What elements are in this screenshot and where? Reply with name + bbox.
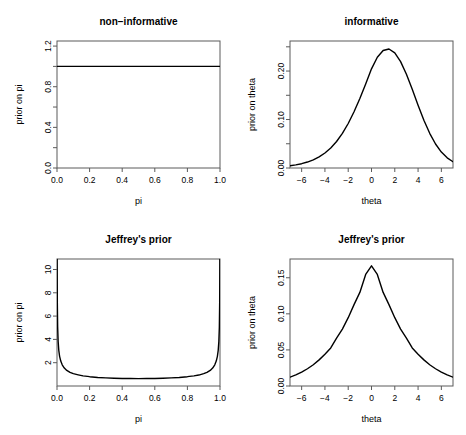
y-tick-label: 0.10 bbox=[276, 111, 286, 128]
x-tick-label: 0.0 bbox=[51, 393, 63, 403]
y-tick-label: 0.00 bbox=[276, 377, 286, 394]
plot-top-left: non−informative0.00.40.81.20.00.20.40.60… bbox=[0, 0, 233, 217]
y-axis-label: prior on pi bbox=[14, 84, 24, 124]
panel-title: non−informative bbox=[99, 16, 178, 27]
x-tick-label: 0.6 bbox=[149, 393, 161, 403]
x-tick-label: −6 bbox=[297, 393, 307, 403]
y-tick-label: 4 bbox=[43, 337, 53, 342]
x-tick-label: 0.0 bbox=[51, 175, 63, 185]
y-axis-label: prior on pi bbox=[14, 302, 24, 342]
x-axis-label: theta bbox=[361, 414, 381, 424]
y-tick-label: 0.00 bbox=[276, 159, 286, 176]
plot-frame bbox=[290, 41, 453, 168]
x-tick-label: 6 bbox=[439, 175, 444, 185]
x-axis-label: pi bbox=[135, 196, 142, 206]
x-axis-label: pi bbox=[135, 414, 142, 424]
y-tick-label: 0.4 bbox=[43, 121, 53, 133]
plot-top-right: informative0.000.100.20−6−4−20246thetapr… bbox=[233, 0, 466, 217]
x-tick-label: −2 bbox=[343, 393, 353, 403]
y-tick-label: 0.0 bbox=[43, 162, 53, 174]
y-tick-label: 0.10 bbox=[276, 305, 286, 322]
x-tick-label: 0.8 bbox=[181, 393, 193, 403]
x-axis-label: theta bbox=[361, 196, 381, 206]
x-tick-label: 0.8 bbox=[181, 175, 193, 185]
x-tick-label: −2 bbox=[343, 175, 353, 185]
data-curve bbox=[57, 259, 220, 378]
plot-bottom-right: Jeffrey's prior0.000.050.100.15−6−4−2024… bbox=[233, 218, 466, 435]
x-tick-label: 4 bbox=[416, 393, 421, 403]
plot-frame bbox=[57, 41, 220, 168]
y-tick-label: 6 bbox=[43, 313, 53, 318]
data-curve bbox=[290, 266, 453, 377]
plot-bottom-left: Jeffrey's prior2468100.00.20.40.60.81.0p… bbox=[0, 218, 233, 435]
x-tick-label: 0.4 bbox=[116, 393, 128, 403]
y-tick-label: 0.20 bbox=[276, 63, 286, 80]
plot-frame bbox=[57, 259, 220, 386]
x-tick-label: 2 bbox=[392, 393, 397, 403]
plot-frame bbox=[290, 259, 453, 386]
data-curve bbox=[290, 49, 453, 166]
y-axis-label: prior on theta bbox=[247, 296, 257, 349]
y-tick-label: 0.05 bbox=[276, 341, 286, 358]
r-multipanel-figure: non−informative0.00.40.81.20.00.20.40.60… bbox=[0, 0, 466, 435]
x-tick-label: −6 bbox=[297, 175, 307, 185]
x-tick-label: 1.0 bbox=[214, 175, 226, 185]
x-tick-label: 0.6 bbox=[149, 175, 161, 185]
panel-title: informative bbox=[345, 16, 399, 27]
x-tick-label: 0.2 bbox=[84, 175, 96, 185]
x-tick-label: 0.2 bbox=[84, 393, 96, 403]
panel-informative-theta: informative0.000.100.20−6−4−20246thetapr… bbox=[233, 0, 466, 217]
x-tick-label: 0 bbox=[369, 175, 374, 185]
x-tick-label: 0 bbox=[369, 393, 374, 403]
panel-title: Jeffrey's prior bbox=[338, 234, 404, 245]
y-tick-label: 1.2 bbox=[43, 40, 53, 52]
y-tick-label: 2 bbox=[43, 360, 53, 365]
x-tick-label: 1.0 bbox=[214, 393, 226, 403]
panel-title: Jeffrey's prior bbox=[105, 234, 171, 245]
panel-non-informative-pi: non−informative0.00.40.81.20.00.20.40.60… bbox=[0, 0, 233, 217]
x-tick-label: 6 bbox=[439, 393, 444, 403]
y-axis-label: prior on theta bbox=[247, 78, 257, 131]
y-tick-label: 0.8 bbox=[43, 81, 53, 93]
y-tick-label: 8 bbox=[43, 290, 53, 295]
y-tick-label: 10 bbox=[43, 264, 53, 274]
x-tick-label: 4 bbox=[416, 175, 421, 185]
x-tick-label: 0.4 bbox=[116, 175, 128, 185]
x-tick-label: 2 bbox=[392, 175, 397, 185]
x-tick-label: −4 bbox=[320, 175, 330, 185]
panel-jeffreys-prior-theta: Jeffrey's prior0.000.050.100.15−6−4−2024… bbox=[233, 218, 466, 435]
panel-jeffreys-prior-pi: Jeffrey's prior2468100.00.20.40.60.81.0p… bbox=[0, 218, 233, 435]
y-tick-label: 0.15 bbox=[276, 269, 286, 286]
x-tick-label: −4 bbox=[320, 393, 330, 403]
